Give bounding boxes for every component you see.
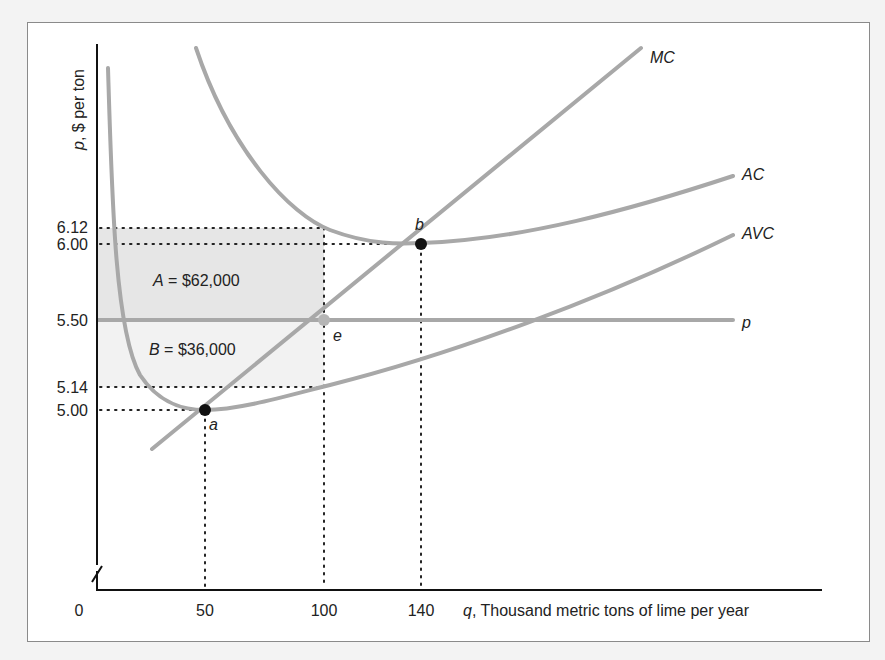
- x-tick-labels: 0 50 100 140: [75, 602, 435, 619]
- label-avc: AVC: [741, 225, 774, 242]
- label-b: b: [415, 216, 424, 233]
- x-axis-title: q, Thousand metric tons of lime per year: [463, 602, 750, 619]
- y-tick: 5.50: [57, 312, 88, 329]
- point-a: [199, 404, 211, 416]
- y-tick: 6.00: [57, 236, 88, 253]
- label-p: p: [741, 314, 751, 331]
- x-tick: 140: [408, 602, 435, 619]
- x-tick: 100: [311, 602, 338, 619]
- y-axis-title: p, $ per ton: [70, 69, 87, 151]
- x-tick: 0: [75, 602, 84, 619]
- y-tick: 5.14: [57, 379, 88, 396]
- label-e: e: [333, 327, 342, 344]
- y-tick: 6.12: [57, 219, 88, 236]
- area-b-label: B = $36,000: [149, 341, 236, 358]
- label-a: a: [209, 416, 218, 433]
- label-mc: MC: [650, 49, 675, 66]
- ac-curve: [196, 48, 733, 244]
- point-e: [318, 314, 330, 326]
- cost-curves-chart: a b e MC AC AVC p A = $62,000 B = $36,00…: [0, 0, 885, 660]
- y-tick: 5.00: [57, 402, 88, 419]
- point-b: [415, 238, 427, 250]
- x-tick: 50: [196, 602, 214, 619]
- y-tick-labels: 6.12 6.00 5.50 5.14 5.00: [57, 219, 88, 419]
- axis-break-icon: [92, 566, 102, 591]
- label-ac: AC: [741, 166, 765, 183]
- area-a-label: A = $62,000: [152, 272, 240, 289]
